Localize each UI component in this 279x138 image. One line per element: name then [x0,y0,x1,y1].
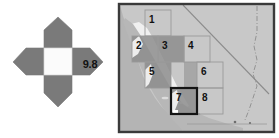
map-cell-shade-6b [184,62,197,88]
channel-island [162,97,169,100]
figure-container: 9.8 [0,0,279,138]
map-figure [117,2,276,134]
map-panel: 1 2 3 4 5 6 7 8 [117,2,276,134]
map-cell-label-7: 7 [176,93,182,103]
map-cell-label-8: 8 [202,93,208,103]
map-cell-label-2: 2 [136,41,142,51]
map-cell-label-4: 4 [188,41,194,51]
map-cell-label-6: 6 [201,67,207,77]
compass-center-square [44,48,72,75]
map-dot [234,121,237,124]
south-arm [44,75,72,107]
map-cell-label-5: 5 [149,67,155,77]
west-arm [13,48,44,75]
north-arm [44,17,72,48]
compass-panel: 9.8 [0,0,116,138]
coast-cutout [173,110,178,113]
map-cell-label-3: 3 [162,41,168,51]
map-cell-label-1: 1 [149,15,155,25]
map-dot [249,122,251,124]
compass-value-label: 9.8 [79,57,101,71]
